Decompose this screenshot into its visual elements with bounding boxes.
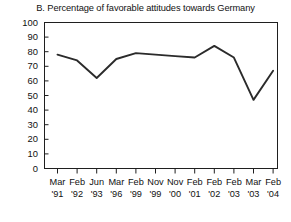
y-tick-label-50: 50 bbox=[12, 91, 38, 101]
plot-frame bbox=[45, 23, 278, 169]
y-tick-label-60: 60 bbox=[12, 76, 38, 86]
y-tick-label-90: 90 bbox=[12, 32, 38, 42]
x-tick-year-11: '04 bbox=[256, 189, 290, 200]
y-tick-label-30: 30 bbox=[12, 120, 38, 130]
y-tick-label-0: 0 bbox=[12, 164, 38, 174]
x-tick-month-11: Feb bbox=[256, 177, 290, 188]
y-tick-label-10: 10 bbox=[12, 149, 38, 159]
series-line-favorable-germany bbox=[58, 46, 274, 100]
chart-figure: B. Percentage of favorable attitudes tow… bbox=[0, 0, 291, 222]
plot-area: 100 90 80 70 60 50 40 30 20 10 0 Mar Feb… bbox=[0, 0, 291, 222]
x-axis-ticks bbox=[58, 169, 274, 174]
y-tick-label-80: 80 bbox=[12, 47, 38, 57]
y-tick-label-100: 100 bbox=[12, 18, 38, 28]
y-tick-label-20: 20 bbox=[12, 134, 38, 144]
y-axis-ticks bbox=[45, 23, 49, 154]
y-tick-label-70: 70 bbox=[12, 61, 38, 71]
y-tick-label-40: 40 bbox=[12, 105, 38, 115]
